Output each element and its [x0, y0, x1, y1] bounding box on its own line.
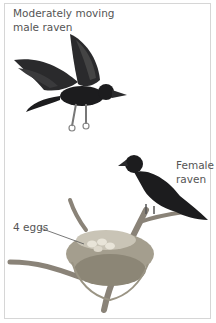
eggs-label: 4 eggs — [13, 220, 48, 234]
male-raven-label-line1: Moderately moving — [13, 6, 115, 20]
flying-raven-illustration — [14, 34, 127, 131]
female-raven-label-line1: Female — [176, 158, 214, 172]
female-raven-label: Female raven — [176, 158, 214, 186]
female-raven-label-line2: raven — [176, 172, 214, 186]
male-raven-label: Moderately moving male raven — [13, 6, 115, 34]
male-raven-label-line2: male raven — [13, 20, 115, 34]
